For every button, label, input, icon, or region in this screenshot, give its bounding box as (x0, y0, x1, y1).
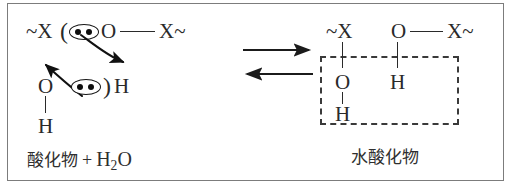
product-hydroxyl-hydrogen-label: H (390, 72, 405, 93)
reactant-chain-start-label: ~X (26, 21, 53, 42)
reactant-water-oh-bond (45, 96, 46, 113)
product-bridging-oxygen-label: O (391, 21, 406, 42)
reactant-compound-label: 酸化物 (27, 150, 78, 170)
lone-pair-dot (77, 84, 83, 90)
product-hydroxyl-oxygen-label: O (335, 72, 350, 93)
reactant-plus-sign: + (78, 150, 96, 170)
product-caption: 水酸化物 (351, 149, 419, 166)
reactant-water-hydrogen-bottom-label: H (38, 116, 53, 137)
product-x-o-bond (342, 42, 343, 68)
lone-pair-ellipse-bottom (71, 79, 101, 95)
reactant-water-oxygen-label: O (38, 76, 53, 97)
lone-pair-dot (88, 84, 94, 90)
reactant-water-hydrogen-right-label: H (114, 76, 129, 97)
figure-border: ~X ( O X~ O (7, 3, 504, 181)
reactant-caption: 酸化物+H2O (27, 149, 132, 172)
product-compound-label: 水酸化物 (351, 147, 419, 167)
equilibrium-arrows (241, 42, 321, 88)
reactant-open-paren: ( (60, 19, 68, 43)
reactant-water-formula: H2O (96, 148, 132, 170)
product-o-h-bond (397, 42, 398, 68)
reaction-diagram: ~X ( O X~ O (0, 0, 511, 186)
product-chain-start-label: ~X (326, 21, 353, 42)
product-chain-end-label: X~ (447, 21, 474, 42)
product-oxygen-x-bond (410, 31, 443, 32)
reactant-close-paren: ) (103, 74, 111, 98)
product-bound-hydrogen-label: H (335, 104, 350, 125)
